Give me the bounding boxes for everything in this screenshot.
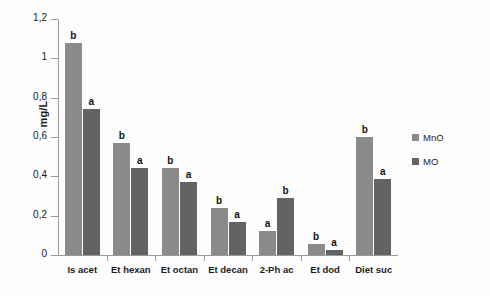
y-tick: 1,2 [51,19,58,20]
bar-chart: mg/L 00,20,40,60,811,2 babababaabbaba Is… [0,0,490,296]
bar-significance-letter: b [119,131,125,141]
bar-significance-letter: b [283,186,289,196]
bar-significance-letter: a [380,167,386,177]
legend-label: MnO [423,132,444,143]
legend-label: MO [423,156,438,167]
y-tick-label: 0 [41,248,47,259]
bar[interactable]: a [180,182,197,255]
bar[interactable]: b [113,143,130,255]
legend-swatch-icon [412,158,419,165]
bar-significance-letter: a [234,210,240,220]
bar-significance-letter: a [265,219,271,229]
bar[interactable]: b [277,198,294,255]
x-tick [107,256,108,261]
y-tick: 1 [51,58,58,59]
bar[interactable]: a [259,231,276,255]
legend: MnOMO [412,132,444,167]
x-category-label: Et decan [204,264,253,275]
bar[interactable]: b [65,43,82,255]
bar-significance-letter: b [362,125,368,135]
bar-significance-letter: a [331,238,337,248]
x-tick [155,256,156,261]
y-axis-line [58,20,59,256]
y-tick: 0,8 [51,98,58,99]
plot-area: 00,20,40,60,811,2 babababaabbaba [58,20,398,256]
bar[interactable]: a [131,168,148,255]
bar[interactable]: a [374,179,391,255]
bar-group: ba [113,20,148,255]
x-category-label: Is acet [58,264,107,275]
x-category-label: Et octan [155,264,204,275]
bar-significance-letter: a [89,97,95,107]
x-axis-line [58,255,398,256]
bar[interactable]: a [326,250,343,255]
bar-group: ab [259,20,294,255]
x-category-label: Et dod [301,264,350,275]
legend-item[interactable]: MnO [412,132,444,143]
bar-significance-letter: b [167,156,173,166]
legend-swatch-icon [412,134,419,141]
y-tick: 0,4 [51,176,58,177]
x-tick [349,256,350,261]
x-category-label: Diet suc [349,264,398,275]
legend-item[interactable]: MO [412,156,444,167]
bar-group: ba [356,20,391,255]
y-tick-label: 1,2 [33,12,47,23]
x-category-label: Et hexan [107,264,156,275]
y-tick: 0,6 [51,137,58,138]
x-category-label: 2-Ph ac [252,264,301,275]
y-tick-label: 0,8 [33,91,47,102]
bar-group: ba [65,20,100,255]
bar-significance-letter: b [313,232,319,242]
bar-significance-letter: a [137,156,143,166]
y-tick-label: 0,2 [33,209,47,220]
bar-group: ba [308,20,343,255]
bar[interactable]: a [229,222,246,255]
bar[interactable]: b [356,137,373,255]
bar[interactable]: b [308,244,325,255]
bar[interactable]: b [162,168,179,255]
bar-significance-letter: b [70,31,76,41]
y-tick: 0 [51,255,58,256]
x-tick [204,256,205,261]
y-tick: 0,2 [51,216,58,217]
x-tick [301,256,302,261]
x-tick [252,256,253,261]
y-tick-label: 0,4 [33,169,47,180]
bar[interactable]: b [211,208,228,255]
y-tick-label: 0,6 [33,130,47,141]
bar[interactable]: a [83,109,100,255]
bar-group: ba [211,20,246,255]
bar-significance-letter: a [186,170,192,180]
bar-group: ba [162,20,197,255]
bar-significance-letter: b [216,196,222,206]
y-tick-label: 1 [41,51,47,62]
